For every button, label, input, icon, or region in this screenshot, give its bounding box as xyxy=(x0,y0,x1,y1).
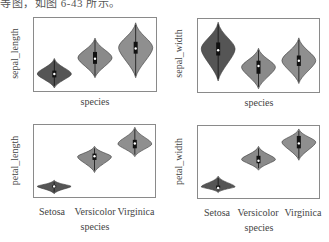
median-marker xyxy=(93,155,95,157)
iqr-box xyxy=(257,61,261,74)
y-axis-label: sepal_width xyxy=(173,14,184,94)
median-marker xyxy=(217,49,219,51)
x-tick-virginica: Virginica xyxy=(111,206,161,217)
x-axis-label: species xyxy=(197,222,321,233)
median-marker xyxy=(257,65,259,67)
iqr-box xyxy=(257,156,261,163)
x-axis-label: species xyxy=(197,97,321,108)
x-axis-label: species xyxy=(33,221,157,232)
median-marker xyxy=(298,142,300,144)
y-axis-label: petal_width xyxy=(173,122,184,202)
y-axis-label: sepal_length xyxy=(9,14,20,94)
x-tick-virginica: Virginica xyxy=(278,207,328,218)
x-tick-versicolor: Versicolor xyxy=(233,207,283,218)
median-marker xyxy=(134,142,136,144)
median-marker xyxy=(257,160,259,162)
plot-area xyxy=(33,17,157,92)
y-axis-label: petal_length xyxy=(9,121,20,201)
median-marker xyxy=(217,187,219,189)
plot-area xyxy=(197,125,320,199)
iqr-box xyxy=(216,42,220,55)
iqr-box xyxy=(297,136,301,148)
median-marker xyxy=(94,58,96,60)
median-marker xyxy=(53,73,55,75)
median-marker xyxy=(134,47,136,49)
x-axis-label: species xyxy=(33,96,157,107)
median-marker xyxy=(298,60,300,62)
median-marker xyxy=(53,185,55,187)
plot-area xyxy=(197,18,320,93)
plot-area xyxy=(33,124,156,198)
figure-caption: 等图，如图 6-43 所示。 xyxy=(0,0,121,10)
